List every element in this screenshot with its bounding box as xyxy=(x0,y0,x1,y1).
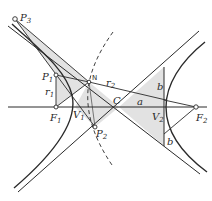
label-f1: F1 xyxy=(49,112,61,125)
label-p3: P3 xyxy=(19,12,32,25)
labels: P3 P1 N r1 r2 F1 V1 P2 C a V2 F2 b b xyxy=(19,12,208,147)
point-p1 xyxy=(54,73,58,77)
line-p3-n xyxy=(15,19,89,82)
label-r2: r2 xyxy=(106,77,116,90)
line-f2-lower xyxy=(164,107,196,134)
point-f1 xyxy=(54,105,58,109)
point-p3 xyxy=(13,17,18,22)
label-b-top: b xyxy=(157,81,163,92)
point-f2 xyxy=(194,105,198,109)
line-to-f2 xyxy=(164,100,196,107)
hyperbola-diagram: P3 P1 N r1 r2 F1 V1 P2 C a V2 F2 b b xyxy=(0,0,212,201)
label-r1: r1 xyxy=(45,86,54,99)
label-b-bottom: b xyxy=(167,136,173,147)
label-c: C xyxy=(113,95,121,106)
label-n: N xyxy=(92,74,97,82)
label-a: a xyxy=(137,96,143,107)
label-p1: P1 xyxy=(41,71,53,84)
label-f2: F2 xyxy=(195,112,208,125)
point-n xyxy=(87,80,91,84)
